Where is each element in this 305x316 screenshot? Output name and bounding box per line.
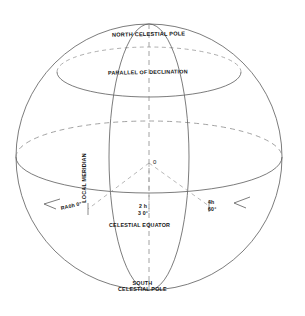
local-meridian-line bbox=[109, 24, 149, 290]
label-origin-point: 0 bbox=[153, 159, 157, 165]
label-declination-sixty: 60° bbox=[208, 207, 216, 213]
hour-circle-meridian-right bbox=[149, 24, 189, 290]
label-south-celestial-pole-line2: CELESTIAL POLE bbox=[118, 287, 167, 293]
radial-line-ra-four-hours bbox=[149, 163, 209, 206]
label-north-celestial-pole: NORTH CELESTIAL POLE bbox=[112, 30, 185, 37]
equator-arrow-left bbox=[44, 199, 60, 209]
label-ra-four-hours: 4h bbox=[208, 200, 214, 206]
label-ra-two-hours: 2 h bbox=[139, 204, 147, 210]
label-celestial-equator: CELESTIAL EQUATOR bbox=[109, 223, 170, 229]
celestial-sphere-figure: NORTH CELESTIAL POLE PARALLEL OF DECLINA… bbox=[0, 0, 305, 316]
label-south-celestial-pole: SOUTH CELESTIAL POLE bbox=[118, 281, 167, 293]
equator-arrow-right bbox=[234, 197, 250, 208]
label-declination-thirty: 3 0° bbox=[138, 211, 148, 217]
celestial-sphere-drawing bbox=[0, 0, 305, 316]
label-local-meridian: LOCAL MERIDIAN bbox=[82, 153, 88, 202]
